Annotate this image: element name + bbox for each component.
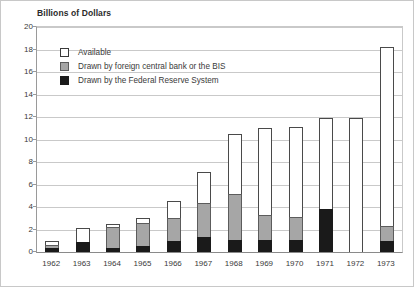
legend-label: Drawn by the Federal Reserve System [78, 76, 219, 85]
x-axis-tick-label: 1968 [225, 259, 243, 268]
bar-segment[interactable] [289, 240, 303, 252]
bar-group[interactable] [319, 118, 333, 252]
bar-segment[interactable] [76, 242, 90, 252]
y-axis: 02468101214161820 [1, 26, 33, 254]
x-axis-tick-label: 1964 [103, 259, 121, 268]
y-axis-tick-label: 8 [7, 157, 33, 166]
gridline [37, 117, 402, 118]
legend-label: Drawn by foreign central bank or the BIS [78, 62, 225, 71]
gridline [37, 230, 402, 231]
gridline [37, 162, 402, 163]
chart-title: Billions of Dollars [37, 8, 111, 18]
bar-segment[interactable] [380, 226, 394, 241]
y-axis-tick-label: 4 [7, 202, 33, 211]
y-axis-tick-label: 18 [7, 44, 33, 53]
chart-container: Billions of Dollars 02468101214161820 Av… [0, 0, 414, 287]
gridline [37, 95, 402, 96]
chart-legend: AvailableDrawn by foreign central bank o… [60, 48, 225, 85]
gridline [37, 185, 402, 186]
legend-label: Available [78, 48, 111, 57]
bar-segment[interactable] [197, 237, 211, 252]
x-axis-tick-label: 1973 [377, 259, 395, 268]
bar-segment[interactable] [167, 241, 181, 252]
y-axis-tick-mark [33, 94, 36, 95]
bar-segment[interactable] [167, 201, 181, 218]
bar-group[interactable] [289, 127, 303, 252]
y-axis-tick-label: 0 [7, 247, 33, 256]
bar-segment[interactable] [228, 240, 242, 252]
gridline [37, 207, 402, 208]
legend-swatch-white [60, 48, 69, 57]
x-axis-tick-label: 1970 [286, 259, 304, 268]
bar-segment[interactable] [289, 217, 303, 240]
x-axis-tick-label: 1966 [164, 259, 182, 268]
bar-group[interactable] [228, 134, 242, 252]
bar-group[interactable] [197, 172, 211, 252]
y-axis-tick-mark [33, 229, 36, 230]
y-axis-tick-label: 20 [7, 22, 33, 31]
legend-item[interactable]: Drawn by the Federal Reserve System [60, 76, 225, 85]
y-axis-tick-label: 14 [7, 89, 33, 98]
legend-swatch-black [60, 76, 69, 85]
bar-segment[interactable] [228, 134, 242, 194]
y-axis-tick-mark [33, 251, 36, 252]
legend-item[interactable]: Drawn by foreign central bank or the BIS [60, 62, 225, 71]
bar-segment[interactable] [106, 248, 120, 253]
bar-segment[interactable] [349, 118, 363, 252]
bar-segment[interactable] [197, 203, 211, 238]
x-axis-tick-label: 1962 [42, 259, 60, 268]
y-axis-tick-mark [33, 26, 36, 27]
bar-segment[interactable] [136, 246, 150, 252]
y-axis-tick-mark [33, 71, 36, 72]
bar-segment[interactable] [289, 127, 303, 217]
gridline [37, 27, 402, 28]
y-axis-tick-label: 16 [7, 67, 33, 76]
y-axis-tick-mark [33, 161, 36, 162]
bar-segment[interactable] [319, 118, 333, 209]
bar-group[interactable] [167, 201, 181, 252]
x-axis-tick-label: 1969 [255, 259, 273, 268]
y-axis-tick-label: 10 [7, 134, 33, 143]
bar-group[interactable] [258, 128, 272, 252]
bar-segment[interactable] [167, 218, 181, 241]
bar-group[interactable] [106, 224, 120, 252]
bar-segment[interactable] [380, 47, 394, 226]
bar-group[interactable] [349, 118, 363, 252]
y-axis-tick-label: 12 [7, 112, 33, 121]
y-axis-tick-mark [33, 49, 36, 50]
bar-group[interactable] [76, 228, 90, 252]
bar-segment[interactable] [45, 248, 59, 252]
bar-segment[interactable] [258, 240, 272, 252]
legend-swatch-gray [60, 62, 69, 71]
x-axis-tick-label: 1967 [194, 259, 212, 268]
bar-segment[interactable] [228, 194, 242, 240]
x-axis-tick-label: 1965 [134, 259, 152, 268]
bar-segment[interactable] [76, 228, 90, 242]
y-axis-tick-mark [33, 139, 36, 140]
y-axis-tick-mark [33, 116, 36, 117]
legend-item[interactable]: Available [60, 48, 225, 57]
bar-group[interactable] [380, 47, 394, 252]
bar-segment[interactable] [197, 172, 211, 202]
gridline [37, 140, 402, 141]
bar-segment[interactable] [258, 215, 272, 240]
bar-segment[interactable] [319, 209, 333, 252]
y-axis-tick-mark [33, 184, 36, 185]
bar-group[interactable] [136, 218, 150, 252]
y-axis-tick-label: 2 [7, 224, 33, 233]
x-axis-tick-label: 1972 [346, 259, 364, 268]
bar-segment[interactable] [258, 128, 272, 215]
y-axis-tick-mark [33, 206, 36, 207]
x-axis-tick-label: 1963 [73, 259, 91, 268]
bar-group[interactable] [45, 241, 59, 252]
bar-segment[interactable] [106, 227, 120, 247]
x-axis-tick-label: 1971 [316, 259, 334, 268]
y-axis-tick-label: 6 [7, 179, 33, 188]
bar-segment[interactable] [136, 223, 150, 247]
bar-segment[interactable] [380, 241, 394, 252]
